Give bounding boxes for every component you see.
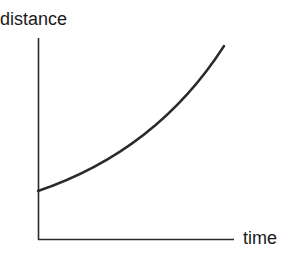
distance-curve [38, 46, 224, 191]
distance-time-graph [0, 0, 294, 256]
